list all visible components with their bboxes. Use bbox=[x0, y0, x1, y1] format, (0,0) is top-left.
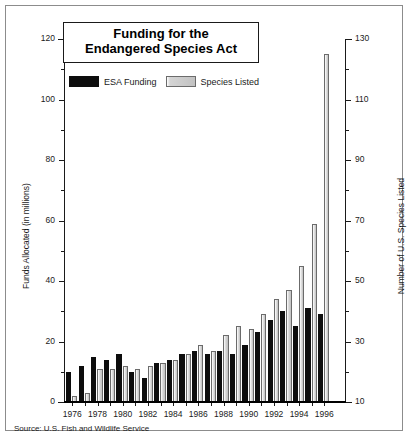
bar-species-listed-1978[interactable] bbox=[97, 369, 102, 402]
bar-group-1981 bbox=[129, 39, 142, 402]
right-axis-label-10: 10 bbox=[355, 397, 385, 406]
bar-esa-funding-1978[interactable] bbox=[91, 357, 96, 402]
bar-esa-funding-1989[interactable] bbox=[230, 354, 235, 402]
bar-species-listed-1989[interactable] bbox=[236, 326, 241, 402]
right-axis-label-130: 130 bbox=[355, 34, 385, 43]
right-axis-label-90: 90 bbox=[355, 155, 385, 164]
left-axis-tick-110 bbox=[61, 69, 65, 70]
bar-esa-funding-1992[interactable] bbox=[268, 320, 273, 402]
right-axis-label-110: 110 bbox=[355, 95, 385, 104]
left-axis-tick-30 bbox=[61, 311, 65, 312]
left-axis-label-40: 40 bbox=[27, 276, 55, 285]
bar-species-listed-1996[interactable] bbox=[324, 54, 329, 402]
left-axis-title: Funds Allocated (in millions) bbox=[21, 161, 31, 311]
bar-esa-funding-1984[interactable] bbox=[167, 360, 172, 402]
legend-swatch-esa-funding bbox=[69, 76, 99, 87]
bar-group-1991 bbox=[255, 39, 268, 402]
bar-group-1995 bbox=[305, 39, 318, 402]
right-axis-tick-20 bbox=[345, 372, 349, 373]
bar-group-1993 bbox=[280, 39, 293, 402]
bar-species-listed-1982[interactable] bbox=[148, 366, 153, 402]
right-axis-tick-60 bbox=[345, 251, 349, 252]
right-axis-title: Number of U.S. Species Listed bbox=[396, 151, 406, 321]
bar-species-listed-1991[interactable] bbox=[261, 314, 266, 402]
right-axis-label-70: 70 bbox=[355, 216, 385, 225]
bar-esa-funding-1988[interactable] bbox=[217, 351, 222, 402]
bar-group-1996 bbox=[318, 39, 331, 402]
right-axis-tick-40 bbox=[345, 311, 349, 312]
legend-swatch-species-listed bbox=[166, 76, 196, 87]
left-axis-tick-10 bbox=[61, 372, 65, 373]
bar-esa-funding-1976[interactable] bbox=[66, 372, 71, 402]
bar-group-1992 bbox=[268, 39, 281, 402]
right-axis-label-30: 30 bbox=[355, 337, 385, 346]
chart-title-line1: Funding for the bbox=[70, 27, 252, 42]
legend-item-esa-funding: ESA Funding bbox=[69, 76, 157, 87]
chart-title-line2: Endangered Species Act bbox=[70, 42, 252, 57]
bar-group-1984 bbox=[167, 39, 180, 402]
bar-species-listed-1993[interactable] bbox=[286, 290, 291, 402]
bar-species-listed-1986[interactable] bbox=[198, 345, 203, 402]
legend-label-esa-funding: ESA Funding bbox=[104, 77, 157, 87]
bar-species-listed-1990[interactable] bbox=[249, 329, 254, 402]
right-axis-tick-70 bbox=[345, 221, 351, 222]
bar-esa-funding-1979[interactable] bbox=[104, 360, 109, 402]
bar-esa-funding-1990[interactable] bbox=[242, 345, 247, 402]
bar-species-listed-1985[interactable] bbox=[186, 354, 191, 402]
left-axis-tick-80 bbox=[59, 160, 65, 161]
bar-species-listed-1980[interactable] bbox=[123, 366, 128, 402]
left-axis-label-100: 100 bbox=[27, 95, 55, 104]
bar-esa-funding-1981[interactable] bbox=[129, 372, 134, 402]
left-axis-tick-20 bbox=[59, 342, 65, 343]
bar-esa-funding-1993[interactable] bbox=[280, 311, 285, 402]
bar-species-listed-1994[interactable] bbox=[299, 266, 304, 402]
bar-group-1977 bbox=[79, 39, 92, 402]
bar-species-listed-1987[interactable] bbox=[211, 351, 216, 402]
bar-esa-funding-1987[interactable] bbox=[205, 354, 210, 402]
bar-esa-funding-1980[interactable] bbox=[116, 354, 121, 402]
bar-group-1979 bbox=[104, 39, 117, 402]
bar-esa-funding-1977[interactable] bbox=[79, 366, 84, 402]
bar-group-1983 bbox=[154, 39, 167, 402]
bar-species-listed-1988[interactable] bbox=[223, 335, 228, 402]
bar-esa-funding-1986[interactable] bbox=[192, 351, 197, 402]
bar-group-1990 bbox=[242, 39, 255, 402]
bar-esa-funding-1995[interactable] bbox=[305, 308, 310, 402]
bar-esa-funding-1996[interactable] bbox=[318, 314, 323, 402]
right-axis-label-50: 50 bbox=[355, 276, 385, 285]
legend-label-species-listed: Species Listed bbox=[201, 77, 260, 87]
bar-species-listed-1992[interactable] bbox=[274, 299, 279, 402]
bar-esa-funding-1994[interactable] bbox=[293, 326, 298, 402]
left-axis-label-120: 120 bbox=[27, 34, 55, 43]
bar-species-listed-1981[interactable] bbox=[135, 369, 140, 402]
right-axis-tick-120 bbox=[345, 69, 349, 70]
bar-species-listed-1984[interactable] bbox=[173, 360, 178, 402]
bar-group-1982 bbox=[142, 39, 155, 402]
bar-esa-funding-1982[interactable] bbox=[142, 378, 147, 402]
right-axis-tick-130 bbox=[345, 39, 351, 40]
bar-group-1994 bbox=[293, 39, 306, 402]
bar-group-1986 bbox=[192, 39, 205, 402]
bar-species-listed-1983[interactable] bbox=[160, 363, 165, 402]
bar-species-listed-1995[interactable] bbox=[312, 224, 317, 402]
bar-esa-funding-1985[interactable] bbox=[179, 354, 184, 402]
left-axis-tick-90 bbox=[61, 130, 65, 131]
chart-title: Funding for the Endangered Species Act bbox=[63, 22, 259, 63]
left-axis-tick-100 bbox=[59, 100, 65, 101]
source-note: Source: U.S. Fish and Wildlife Service bbox=[14, 424, 149, 433]
bar-esa-funding-1991[interactable] bbox=[255, 332, 260, 402]
left-axis-tick-40 bbox=[59, 281, 65, 282]
left-axis-tick-50 bbox=[61, 251, 65, 252]
bar-species-listed-1979[interactable] bbox=[110, 369, 115, 402]
right-axis-tick-50 bbox=[345, 281, 351, 282]
bar-group-1988 bbox=[217, 39, 230, 402]
bar-group-1985 bbox=[179, 39, 192, 402]
right-axis-tick-30 bbox=[345, 342, 351, 343]
bar-group-1976 bbox=[66, 39, 79, 402]
legend-item-species-listed: Species Listed bbox=[166, 76, 260, 87]
bar-group-1980 bbox=[116, 39, 129, 402]
x-axis-baseline bbox=[64, 401, 346, 403]
bar-esa-funding-1983[interactable] bbox=[154, 363, 159, 402]
x-axis-label-1996: 1996 bbox=[307, 410, 341, 419]
left-axis-label-0: 0 bbox=[27, 397, 55, 406]
